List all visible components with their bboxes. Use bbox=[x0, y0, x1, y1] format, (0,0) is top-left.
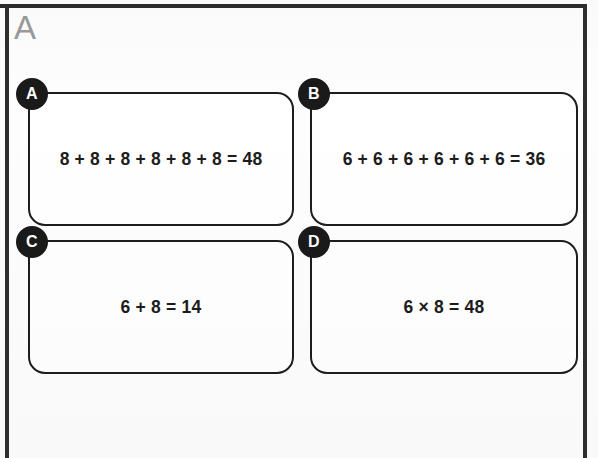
option-equation-b: 6 + 6 + 6 + 6 + 6 + 6 = 36 bbox=[312, 149, 576, 170]
option-equation-c: 6 + 8 = 14 bbox=[30, 297, 292, 318]
answer-option-c[interactable]: C 6 + 8 = 14 bbox=[28, 240, 294, 374]
option-badge-d: D bbox=[298, 226, 330, 258]
option-badge-a: A bbox=[16, 78, 48, 110]
scanned-page: A A 8 + 8 + 8 + 8 + 8 + 8 = 48 B 6 + 6 +… bbox=[0, 0, 598, 458]
answer-option-d[interactable]: D 6 × 8 = 48 bbox=[310, 240, 578, 374]
option-badge-c: C bbox=[16, 226, 48, 258]
option-badge-b: B bbox=[298, 78, 330, 110]
option-equation-a: 8 + 8 + 8 + 8 + 8 + 8 = 48 bbox=[30, 149, 292, 170]
answer-options-grid: A 8 + 8 + 8 + 8 + 8 + 8 = 48 B 6 + 6 + 6… bbox=[0, 0, 598, 458]
option-equation-d: 6 × 8 = 48 bbox=[312, 297, 576, 318]
answer-option-b[interactable]: B 6 + 6 + 6 + 6 + 6 + 6 = 36 bbox=[310, 92, 578, 226]
answer-option-a[interactable]: A 8 + 8 + 8 + 8 + 8 + 8 = 48 bbox=[28, 92, 294, 226]
